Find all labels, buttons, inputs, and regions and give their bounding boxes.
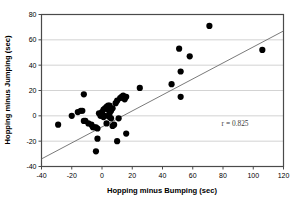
chart-annotations: r = 0.825 [222,119,249,128]
data-point [93,148,99,154]
data-point [176,46,182,52]
data-point [259,47,265,53]
y-axis-tick-labels: -40-20020406080 [26,11,41,170]
y-tick-label: 20 [29,87,37,94]
x-tick-label: 120 [278,172,290,179]
data-point [137,85,143,91]
y-axis-title: Hopping minus Jumping (sec) [3,35,12,144]
data-point [69,113,75,119]
correlation-annotation: r = 0.825 [222,119,249,128]
data-point [178,94,184,100]
data-point [55,122,61,128]
x-tick-label: -20 [67,172,77,179]
data-point [123,130,129,136]
data-point [108,115,114,121]
regression-line [42,31,284,159]
x-tick-label: 20 [128,172,136,179]
y-tick-label: 60 [29,36,37,43]
data-point [123,94,129,100]
data-point [94,125,100,131]
x-axis-title: Hopping minus Bumping (sec) [107,186,218,195]
y-tick-label: 0 [33,112,37,119]
x-tick-label: 80 [219,172,227,179]
x-tick-label: 60 [189,172,197,179]
data-point [103,120,109,126]
data-point [206,23,212,29]
data-point [178,68,184,74]
data-point [116,115,122,121]
y-tick-label: -20 [26,138,36,145]
x-tick-label: 0 [100,172,104,179]
x-tick-label: -40 [36,172,46,179]
chart-canvas: -40-20020406080 -40-20020406080100120 r … [0,0,303,198]
data-point [94,136,100,142]
x-tick-label: 40 [159,172,167,179]
regression-line-segment [42,31,284,159]
data-point [81,91,87,97]
y-tick-label: 40 [29,62,37,69]
data-point [187,53,193,59]
data-point [79,108,85,114]
x-axis-tick-labels: -40-20020406080100120 [36,172,289,179]
data-point [114,138,120,144]
data-point [168,81,174,87]
y-tick-label: 80 [29,11,37,18]
data-point [111,122,117,128]
x-tick-label: 100 [247,172,259,179]
y-tick-label: -40 [26,163,36,170]
scatter-plot-figure: -40-20020406080 -40-20020406080100120 r … [0,0,303,198]
